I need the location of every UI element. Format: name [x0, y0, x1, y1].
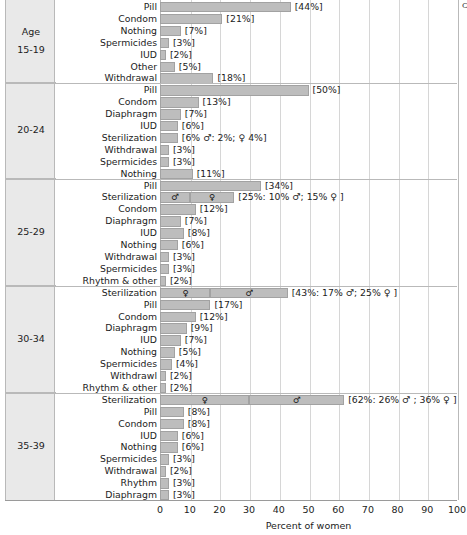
- bar-fill: [160, 85, 309, 95]
- bar-fill: [160, 466, 166, 476]
- bar-segment-male: ♂: [160, 192, 190, 202]
- male-icon: ♂: [293, 395, 301, 405]
- bar-fill: [160, 264, 169, 274]
- bar-fill: [160, 145, 169, 155]
- bar-fill: [160, 359, 172, 369]
- bar: [160, 442, 178, 452]
- male-icon: ♂: [171, 192, 179, 202]
- bar-fill: [160, 109, 181, 119]
- bar: [160, 454, 169, 464]
- bar: [160, 50, 166, 60]
- bar-fill: [160, 490, 169, 500]
- bar: [160, 62, 175, 72]
- bar: ♂♀: [160, 192, 234, 202]
- bar-fill: [160, 312, 196, 322]
- bar-fill: [160, 252, 169, 262]
- bar-fill: [160, 228, 184, 238]
- bar-fill: [160, 121, 178, 131]
- bar-fill: [160, 62, 175, 72]
- x-tick-90: 90: [421, 504, 433, 515]
- x-tick-30: 30: [243, 504, 255, 515]
- bar: [160, 121, 178, 131]
- bar: [160, 383, 166, 393]
- bar-fill: [160, 300, 210, 310]
- bar-fill: [160, 407, 184, 417]
- bar: [160, 26, 181, 36]
- bar: ♀♂: [160, 395, 344, 405]
- female-icon: ♀: [201, 395, 207, 405]
- bar-fill: [160, 323, 187, 333]
- bar-fill: [160, 371, 166, 381]
- x-axis-title: Percent of women: [160, 520, 457, 531]
- bar-fill: [160, 240, 178, 250]
- bar-fill: [160, 2, 291, 12]
- bar: [160, 38, 169, 48]
- section-divider-35-39: [5, 393, 457, 394]
- bar-fill: [160, 454, 169, 464]
- bar: [160, 466, 166, 476]
- x-tick-40: 40: [273, 504, 285, 515]
- bar-fill: [160, 14, 222, 24]
- bar-segment-female: ♀: [160, 288, 210, 298]
- adjacent-page-text-bleed: C o n t r a c e p t i v e m e t h o d s: [462, 0, 467, 500]
- bar-fill: [160, 169, 193, 179]
- bar-fill: [160, 133, 178, 143]
- bar: [160, 371, 166, 381]
- bar: [160, 312, 196, 322]
- female-icon: ♀: [182, 288, 188, 298]
- bar: [160, 347, 175, 357]
- x-tick-100: 100: [448, 504, 466, 515]
- bar-fill: [160, 73, 213, 83]
- x-tick-80: 80: [392, 504, 404, 515]
- bar: [160, 276, 166, 286]
- bar-fill: [160, 442, 178, 452]
- bar: [160, 14, 222, 24]
- bar-fill: [160, 419, 184, 429]
- bar: [160, 2, 291, 12]
- bar: [160, 216, 181, 226]
- x-tick-60: 60: [332, 504, 344, 515]
- x-tick-50: 50: [302, 504, 314, 515]
- bar: [160, 431, 178, 441]
- bar-fill: [160, 38, 169, 48]
- bar-fill: [160, 97, 199, 107]
- bar-fill: [160, 26, 181, 36]
- male-icon: ♂: [245, 288, 253, 298]
- bar: [160, 73, 213, 83]
- bar-fill: [160, 216, 181, 226]
- bar-row: Diaphragm[3%]: [160, 488, 457, 502]
- bar-segment-female: ♀: [190, 192, 235, 202]
- x-tick-0: 0: [157, 504, 163, 515]
- bar-value-label: [3%]: [173, 488, 195, 502]
- bar: [160, 240, 178, 250]
- bar: [160, 169, 193, 179]
- bar-fill: [160, 50, 166, 60]
- bar-fill: [160, 276, 166, 286]
- bar: [160, 97, 199, 107]
- bar-fill: [160, 383, 166, 393]
- bar: [160, 264, 169, 274]
- x-tick-20: 20: [213, 504, 225, 515]
- bar: ♀♂: [160, 288, 288, 298]
- section-divider-25-29: [5, 179, 457, 180]
- bar: [160, 478, 169, 488]
- bar-segment-male: ♂: [249, 395, 344, 405]
- x-tick-10: 10: [184, 504, 196, 515]
- female-icon: ♀: [209, 192, 215, 202]
- bar-fill: [160, 157, 169, 167]
- bar: [160, 181, 261, 191]
- bar: [160, 228, 184, 238]
- bar-fill: [160, 335, 181, 345]
- bar: [160, 419, 184, 429]
- bar-fill: [160, 347, 175, 357]
- bar: [160, 145, 169, 155]
- bar: [160, 109, 181, 119]
- section-divider-30-34: [5, 286, 457, 287]
- bar-segment-female: ♀: [160, 395, 249, 405]
- bar: [160, 133, 178, 143]
- bar: [160, 204, 196, 214]
- x-tick-70: 70: [362, 504, 374, 515]
- section-divider-20-24: [5, 83, 457, 84]
- bar-fill: [160, 478, 169, 488]
- bar: [160, 407, 184, 417]
